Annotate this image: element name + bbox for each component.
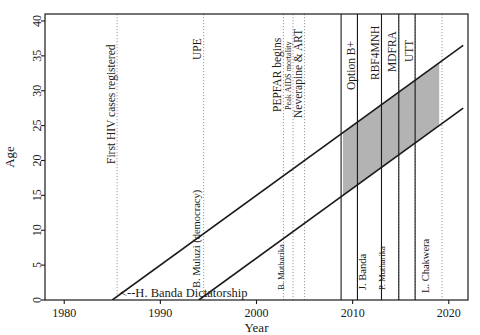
x-tick-label-1990: 1990 [148, 306, 172, 320]
y-tick-label-35: 35 [30, 50, 44, 62]
leader-label-b-muluzi-democracy-: B. Muluzi (democracy) [191, 189, 203, 288]
timeline-chart: 051015202530354019801990200020102020AgeY… [0, 0, 480, 335]
y-tick-label-5: 5 [30, 262, 44, 268]
leader-label-j-banda: J. Banda [357, 254, 368, 291]
event-label-upe: UPE [191, 38, 203, 60]
y-tick-label-15: 15 [30, 189, 44, 201]
y-tick-label-30: 30 [30, 85, 44, 97]
event-label-utt: UTT [403, 40, 415, 62]
chart-canvas: 051015202530354019801990200020102020AgeY… [0, 0, 480, 335]
event-label-mdfra: MDFRA [386, 30, 398, 72]
x-tick-label-2010: 2010 [341, 306, 365, 320]
event-label-option-b-: Option B+ [345, 41, 358, 90]
event-label-first-hiv-cases-registered: First HIV cases registered [105, 44, 118, 164]
x-tick-label-2000: 2000 [245, 306, 269, 320]
y-tick-label-25: 25 [30, 120, 44, 132]
leader-label-l-chakwera: L. Chakwera [420, 238, 431, 293]
y-tick-label-0: 0 [30, 297, 44, 303]
event-label-rbf4mnh: RBF4MNH [369, 26, 381, 80]
x-tick-label-1980: 1980 [52, 306, 76, 320]
event-label-neverapine-art: Neverapine & ART [292, 29, 305, 118]
x-axis-title: Year [245, 320, 270, 335]
leader-label-b-mutharika: B. Mutharika [276, 244, 286, 290]
y-tick-label-20: 20 [30, 154, 44, 166]
event-label-pepfar-begins: PEPFAR begins [271, 37, 284, 112]
leader-label-h-banda: <--H. Banda Dictatorship [120, 286, 248, 300]
x-tick-label-2020: 2020 [437, 306, 461, 320]
leader-label-p-mutharika: P. Mutharika [377, 246, 387, 290]
y-axis-title: Age [2, 146, 17, 168]
y-tick-label-40: 40 [30, 15, 44, 27]
y-tick-label-10: 10 [30, 224, 44, 236]
